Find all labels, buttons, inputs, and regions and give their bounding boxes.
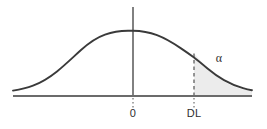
x-axis-label-critical-value: DL: [174, 108, 214, 119]
normal-distribution-figure: 0 DL α: [0, 0, 267, 129]
x-axis-label-mean: 0: [113, 108, 153, 119]
alpha-region-label: α: [199, 52, 239, 64]
